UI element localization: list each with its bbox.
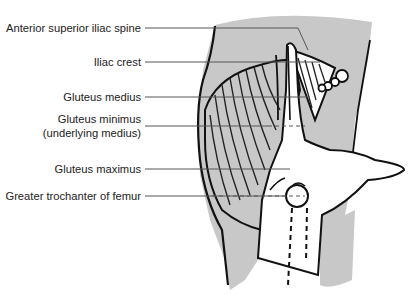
hip-illustration — [0, 0, 419, 295]
